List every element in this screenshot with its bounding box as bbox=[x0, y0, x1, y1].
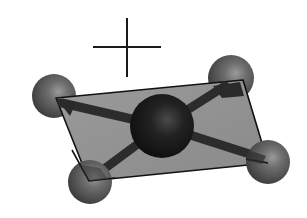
molecule-svg bbox=[0, 0, 307, 218]
ligand-atom-bottom-right bbox=[246, 140, 290, 184]
axis-cross-icon bbox=[93, 18, 161, 77]
central-atom bbox=[130, 94, 194, 158]
square-planar-diagram: Square planar molecular geometry bbox=[0, 0, 307, 218]
